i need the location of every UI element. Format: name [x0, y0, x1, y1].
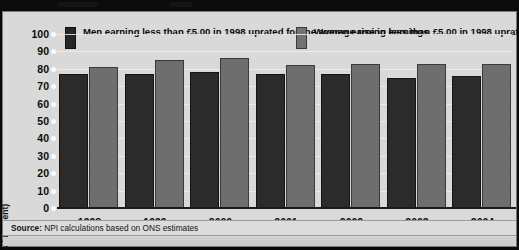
- y-tick-label: 30: [5, 151, 49, 161]
- y-tick-label: 90: [5, 46, 49, 56]
- y-tick-label: 20: [5, 168, 49, 178]
- y-tick-label: 80: [5, 64, 49, 74]
- y-tick-dot-icon: [51, 136, 56, 141]
- bar-group: [321, 20, 382, 208]
- chart-panel: Men earning less than £5.00 in 1998 upra…: [2, 11, 517, 247]
- y-tick-dot-icon: [51, 189, 56, 194]
- y-tick-dot-icon: [51, 84, 56, 89]
- bar-group: [59, 20, 120, 208]
- plot-area: 0102030405060708090100 19981999200020012…: [57, 20, 512, 208]
- source-bar: Source: NPI calculations based on ONS es…: [3, 220, 516, 236]
- bar-women: [417, 64, 446, 208]
- y-tick-dot-icon: [51, 119, 56, 124]
- y-tick-dot-icon: [51, 171, 56, 176]
- bar-men: [387, 78, 416, 209]
- y-tick-dot-icon: [51, 154, 56, 159]
- bar-men: [452, 76, 481, 208]
- page-top-band: [0, 0, 519, 11]
- bar-women: [155, 60, 184, 208]
- bar-men: [256, 74, 285, 208]
- y-tick-label: 10: [5, 186, 49, 196]
- y-tick-label: 0: [5, 203, 49, 213]
- y-tick-dot-icon: [51, 49, 56, 54]
- bar-group: [452, 20, 513, 208]
- bar-men: [321, 74, 350, 208]
- source-note: Source: NPI calculations based on ONS es…: [11, 222, 198, 234]
- y-tick-dot-icon: [51, 32, 56, 37]
- x-axis-baseline: [57, 207, 516, 209]
- bar-group: [387, 20, 448, 208]
- bar-group: [256, 20, 317, 208]
- bar-men: [190, 72, 219, 208]
- bar-men: [59, 74, 88, 208]
- bar-group: [125, 20, 186, 208]
- y-tick-dot-icon: [51, 206, 56, 211]
- bar-women: [286, 65, 315, 208]
- y-tick-label: 70: [5, 81, 49, 91]
- y-tick-label: 100: [5, 29, 49, 39]
- panel-bottom-edge: [3, 237, 516, 246]
- bar-women: [351, 64, 380, 208]
- y-tick-label: 50: [5, 116, 49, 126]
- bar-women: [89, 67, 118, 208]
- bar-women: [482, 64, 511, 208]
- y-tick-dot-icon: [51, 67, 56, 72]
- y-tick-label: 40: [5, 133, 49, 143]
- source-text: NPI calculations based on ONS estimates: [44, 223, 198, 233]
- source-prefix: Source:: [11, 223, 42, 233]
- bar-men: [125, 74, 154, 208]
- bar-women: [220, 58, 249, 208]
- y-tick-label: 60: [5, 99, 49, 109]
- figure-root: Men earning less than £5.00 in 1998 upra…: [0, 0, 519, 250]
- bar-group: [190, 20, 251, 208]
- y-tick-dot-icon: [51, 102, 56, 107]
